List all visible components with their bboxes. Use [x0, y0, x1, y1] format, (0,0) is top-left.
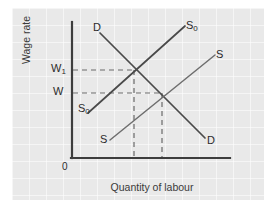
y-axis-title: Wage rate	[20, 5, 32, 75]
y-tick-w1-text: W	[51, 62, 61, 74]
curve-label-s-top: S	[216, 49, 223, 60]
y-tick-w1-subscript: 1	[61, 67, 65, 76]
supply-curve-s	[110, 55, 215, 140]
demand-curve-d	[100, 33, 205, 138]
curve-label-s0-left-subscript: 0	[85, 107, 89, 116]
y-tick-label-w1: W1	[51, 63, 66, 74]
curve-label-s0-top-subscript: 0	[193, 24, 197, 33]
curve-label-s-bottom: S	[100, 134, 107, 145]
figure-root: Wage rate Quantity of labour 0 W1 W D D …	[0, 0, 276, 212]
curve-label-d-top: D	[93, 22, 101, 33]
x-axis-title: Quantity of labour	[72, 181, 232, 193]
curve-label-s0-top: S0	[186, 20, 198, 31]
curve-label-s0-left: S0	[78, 103, 90, 114]
y-tick-label-w: W	[53, 86, 63, 97]
curve-label-d-bottom: D	[207, 135, 215, 146]
origin-label: 0	[62, 162, 68, 172]
